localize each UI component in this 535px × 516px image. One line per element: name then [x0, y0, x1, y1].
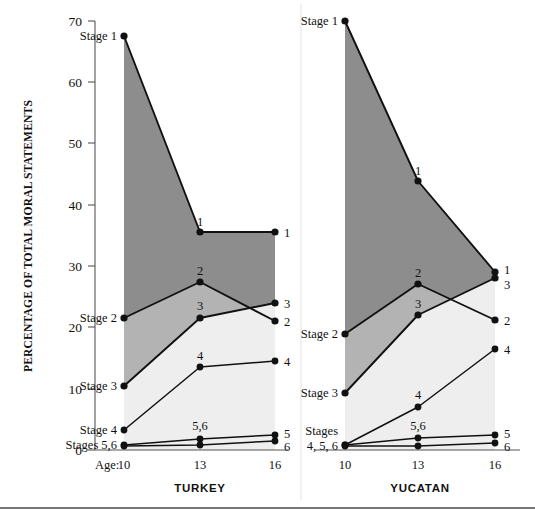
- age-prefix-label: Age:: [95, 458, 119, 472]
- chart-figure: 70 60 50 40 30 20 10 0 PERCENTAGE OF TOT…: [0, 0, 535, 516]
- yucatan-endtag-stage2: 2: [504, 314, 510, 328]
- turkey-point-stage3-age10: [120, 382, 127, 389]
- turkey-label-stage1: Stage 1: [80, 29, 117, 43]
- panel-title-yucatan: YUCATAN: [390, 482, 449, 494]
- turkey-point-stage6-age10: [121, 443, 128, 450]
- yucatan-xtick-10: 10: [339, 458, 352, 472]
- yucatan-point-stage2-age10: [341, 330, 348, 337]
- y-tick-label-50: 50: [69, 136, 83, 151]
- turkey-point-stage5-age13: [197, 436, 204, 443]
- y-tick-label-60: 60: [69, 75, 83, 90]
- yucatan-point-stage5-age16: [492, 432, 499, 439]
- yucatan-point-stage1-age13: [414, 177, 421, 184]
- yucatan-endtag-stage1: 1: [504, 263, 510, 277]
- turkey-endtag-stage1: 1: [284, 226, 290, 240]
- yucatan-point-stage2-age16: [491, 316, 498, 323]
- turkey-label-stage2: Stage 2: [80, 311, 117, 325]
- yucatan-point-stage6-age16: [492, 440, 499, 447]
- yucatan-point-stage3-age10: [341, 389, 348, 396]
- turkey-endtag-stage5: 5: [284, 427, 290, 441]
- turkey-midtag-stage3: 3: [197, 299, 203, 313]
- turkey-shading: [124, 36, 275, 450]
- turkey-xtick-13: 13: [194, 458, 207, 472]
- yucatan-point-stage4-age16: [492, 346, 499, 353]
- turkey-point-stage6-age13: [197, 442, 204, 449]
- turkey-point-stage6-age16: [272, 438, 279, 445]
- yucatan-endtag-stage3: 3: [504, 278, 510, 292]
- turkey-label-stage4: Stage 4: [80, 423, 118, 437]
- yucatan-label-stage1: Stage 1: [301, 14, 338, 28]
- yucatan-midtag-stage1: 1: [415, 164, 421, 178]
- panel-title-turkey: TURKEY: [174, 482, 225, 494]
- turkey-point-stage3-age13: [196, 314, 203, 321]
- yucatan-midtag-stage3: 3: [415, 297, 421, 311]
- turkey-point-stage2-age13: [196, 278, 203, 285]
- turkey-label-stage3: Stage 3: [80, 379, 117, 393]
- yucatan-point-stage5-age13: [415, 435, 422, 442]
- turkey-point-stage2-age16: [271, 317, 278, 324]
- y-axis-title: PERCENTAGE OF TOTAL MORAL STATEMENTS: [22, 100, 34, 372]
- turkey-point-stage4-age16: [272, 358, 279, 365]
- turkey-point-stage4-age10: [121, 427, 128, 434]
- turkey-point-stage1-age13: [196, 228, 203, 235]
- yucatan-point-stage6-age13: [415, 443, 422, 450]
- yucatan-label-stage2: Stage 2: [301, 327, 338, 341]
- yucatan-label-stage3: Stage 3: [301, 386, 338, 400]
- yucatan-midtag-stages56: 5,6: [410, 419, 426, 433]
- chart-canvas: 70 60 50 40 30 20 10 0 PERCENTAGE OF TOT…: [0, 0, 535, 516]
- yucatan-endtag-stage4: 4: [504, 343, 511, 357]
- turkey-label-stages56: Stages 5,6: [66, 438, 117, 452]
- yucatan-point-stage4-age13: [415, 404, 422, 411]
- yucatan-midtag-stage2: 2: [415, 266, 421, 280]
- yucatan-midtag-stage4: 4: [415, 388, 422, 402]
- turkey-point-stage2-age10: [120, 314, 127, 321]
- turkey-midtag-stage2: 2: [197, 264, 203, 278]
- yucatan-xtick-13: 13: [412, 458, 425, 472]
- yucatan-point-stage1-age10: [341, 17, 348, 24]
- y-tick-label-30: 30: [69, 259, 83, 274]
- turkey-endtag-stage3: 3: [284, 297, 290, 311]
- yucatan-label-stages-line2: 4, 5, 6: [307, 439, 338, 453]
- turkey-midtag-stage1: 1: [197, 215, 203, 229]
- yucatan-point-stage6-age10: [342, 443, 349, 450]
- yucatan-endtag-stage6: 6: [504, 440, 510, 454]
- yucatan-point-stage3-age16: [491, 274, 498, 281]
- turkey-midtag-stage4: 4: [197, 349, 204, 363]
- yucatan-endtag-stage5: 5: [504, 427, 510, 441]
- turkey-midtag-stages56: 5,6: [192, 419, 208, 433]
- turkey-xtick-16: 16: [269, 458, 282, 472]
- turkey-point-stage4-age13: [197, 364, 204, 371]
- turkey-xtick-10: 10: [118, 458, 131, 472]
- yucatan-point-stage2-age13: [414, 280, 421, 287]
- turkey-endtag-stage4: 4: [284, 355, 291, 369]
- yucatan-shading: [345, 21, 495, 450]
- yucatan-point-stage3-age13: [414, 311, 421, 318]
- turkey-point-stage1-age16: [271, 228, 278, 235]
- turkey-endtag-stage6: 6: [284, 440, 290, 454]
- yucatan-label-stages-line1: Stages: [305, 424, 338, 438]
- turkey-point-stage3-age16: [271, 299, 278, 306]
- y-tick-label-70: 70: [69, 14, 83, 29]
- turkey-endtag-stage2: 2: [284, 315, 290, 329]
- yucatan-xtick-16: 16: [489, 458, 502, 472]
- turkey-point-stage1-age10: [120, 32, 127, 39]
- y-tick-label-40: 40: [69, 198, 83, 213]
- turkey-point-stage5-age16: [272, 432, 279, 439]
